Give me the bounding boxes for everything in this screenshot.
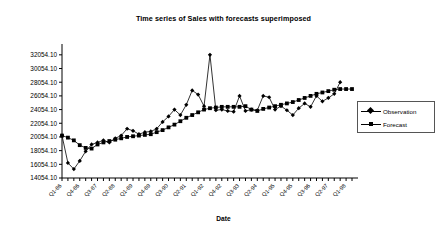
data-point-square xyxy=(303,96,307,100)
data-point-square xyxy=(232,105,236,109)
data-point-square xyxy=(279,103,283,107)
x-tick-label: Q3-96 xyxy=(296,182,311,197)
data-point-square xyxy=(149,132,153,136)
data-point-square xyxy=(173,123,177,127)
x-tick-label: Q1-98 xyxy=(332,182,347,197)
legend-label-observation: Observation xyxy=(383,108,416,115)
data-point-square xyxy=(338,87,342,91)
x-axis-title: Date xyxy=(0,215,447,222)
data-point-diamond xyxy=(338,80,342,84)
series-line-observation xyxy=(62,55,340,169)
x-tick-label: Q3-90 xyxy=(154,182,169,197)
y-tick-label: 30054.10 xyxy=(30,65,57,72)
data-point-square xyxy=(309,94,313,98)
x-tick-label: Q3-93 xyxy=(225,182,240,197)
data-point-diamond xyxy=(237,94,241,98)
y-tick-label: 28054.10 xyxy=(30,79,57,86)
data-point-diamond xyxy=(232,110,236,114)
data-point-diamond xyxy=(273,107,277,111)
data-point-diamond xyxy=(226,109,230,113)
x-tick-label: Q4-95 xyxy=(278,182,293,197)
data-point-square xyxy=(244,104,248,108)
data-point-diamond xyxy=(131,129,135,133)
data-point-square xyxy=(66,136,70,140)
data-point-square xyxy=(72,138,76,142)
x-tick-label: Q4-89 xyxy=(136,182,151,197)
data-point-square xyxy=(196,110,200,114)
x-tick-label: Q4-86 xyxy=(65,182,80,197)
data-point-diamond xyxy=(243,109,247,113)
data-point-square xyxy=(78,143,82,147)
y-tick-label: 22054.10 xyxy=(30,120,57,127)
data-point-square xyxy=(84,146,88,150)
x-tick-label: Q2-94 xyxy=(243,182,258,197)
data-point-square xyxy=(326,89,330,93)
data-point-square xyxy=(255,109,259,113)
data-point-square xyxy=(137,134,141,138)
data-point-square xyxy=(102,141,106,145)
x-tick-label: Q4-92 xyxy=(207,182,222,197)
data-point-square xyxy=(208,106,212,110)
x-tick-label: Q3-87 xyxy=(83,182,98,197)
y-tick-label: 24054.10 xyxy=(30,106,57,113)
data-point-square xyxy=(184,116,188,120)
x-tick-label: Q1-95 xyxy=(261,182,276,197)
x-tick-label: Q1-92 xyxy=(190,182,205,197)
data-point-diamond xyxy=(261,94,265,98)
data-point-diamond xyxy=(267,95,271,99)
y-axis: 14054.1016054.1018054.1020054.1022054.10… xyxy=(30,44,62,181)
data-point-square xyxy=(273,104,277,108)
diamond-marker-icon xyxy=(361,106,381,116)
data-series-group xyxy=(60,53,354,171)
data-point-square xyxy=(131,134,135,138)
data-point-square xyxy=(113,138,117,142)
x-tick-label: Q2-97 xyxy=(314,182,329,197)
data-point-square xyxy=(90,147,94,151)
data-point-square xyxy=(261,107,265,111)
data-point-square xyxy=(60,134,64,138)
data-point-square xyxy=(167,125,171,129)
data-point-square xyxy=(226,105,230,109)
data-point-square xyxy=(220,105,224,109)
data-point-diamond xyxy=(184,103,188,107)
data-point-square xyxy=(214,106,218,110)
x-tick-label: Q1-86 xyxy=(47,182,62,197)
data-point-square xyxy=(125,135,129,139)
x-tick-label: Q2-88 xyxy=(101,182,116,197)
y-tick-label: 16054.10 xyxy=(30,161,57,168)
data-point-diamond xyxy=(308,105,312,109)
y-tick-label: 14054.10 xyxy=(30,174,57,181)
data-point-square xyxy=(267,106,271,110)
data-point-square xyxy=(238,105,242,109)
chart-container: Time series of Sales with forecasts supe… xyxy=(0,0,447,236)
data-point-square xyxy=(291,100,295,104)
data-point-square xyxy=(350,87,354,91)
y-tick-label: 32054.10 xyxy=(30,51,57,58)
data-point-square xyxy=(297,98,301,102)
chart-legend: Observation Forecast xyxy=(357,101,435,133)
y-tick-label: 20054.10 xyxy=(30,133,57,140)
data-point-square xyxy=(249,108,253,112)
data-point-square xyxy=(119,136,123,140)
data-point-square xyxy=(178,119,182,123)
data-point-diamond xyxy=(208,53,212,57)
legend-entry-observation: Observation xyxy=(361,105,416,117)
y-tick-label: 26054.10 xyxy=(30,92,57,99)
data-point-square xyxy=(202,108,206,112)
data-point-square xyxy=(190,113,194,117)
series-line-forecast xyxy=(62,89,352,149)
x-tick-label: Q1-89 xyxy=(118,182,133,197)
y-tick-label: 18054.10 xyxy=(30,147,57,154)
data-point-square xyxy=(332,88,336,92)
x-tick-label: Q2-91 xyxy=(172,182,187,197)
x-axis: Q1-86Q4-86Q3-87Q2-88Q1-89Q4-89Q3-90Q2-91… xyxy=(47,178,358,198)
data-point-square xyxy=(321,91,325,95)
data-point-square xyxy=(315,92,319,96)
square-marker-icon xyxy=(361,119,381,129)
data-point-square xyxy=(143,133,147,137)
data-point-diamond xyxy=(202,104,206,108)
legend-label-forecast: Forecast xyxy=(383,121,407,128)
data-point-square xyxy=(161,128,165,132)
data-point-square xyxy=(155,130,159,134)
data-point-square xyxy=(96,143,100,147)
